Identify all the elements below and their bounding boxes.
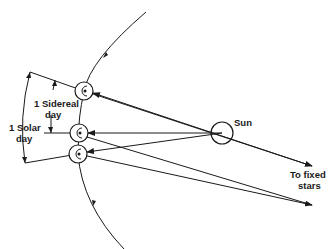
fixed-stars-label-2: stars: [298, 180, 321, 191]
solar-day-dimension: [22, 72, 30, 163]
sidereal-solar-day-diagram: Sun 1 Sidereal day 1 Solar day To fixed …: [0, 0, 334, 249]
fixed-star-line-2: [78, 154, 312, 205]
solar-label-1: 1 Solar: [9, 122, 41, 133]
fixed-star-line-1: [84, 91, 312, 166]
sidereal-label-2: day: [45, 109, 62, 120]
orbit-arrow-icon: [103, 52, 108, 58]
sun-label: Sun: [234, 117, 252, 128]
earth3-sun-line: [87, 133, 222, 152]
fixed-star-line-3: [87, 137, 312, 205]
fixed-stars-label-1: To fixed: [290, 169, 326, 180]
earth-position-3: [69, 145, 87, 163]
sidereal-label-1: 1 Sidereal: [34, 98, 79, 109]
earth-position-2: [70, 124, 88, 142]
solar-label-2: day: [16, 133, 33, 144]
